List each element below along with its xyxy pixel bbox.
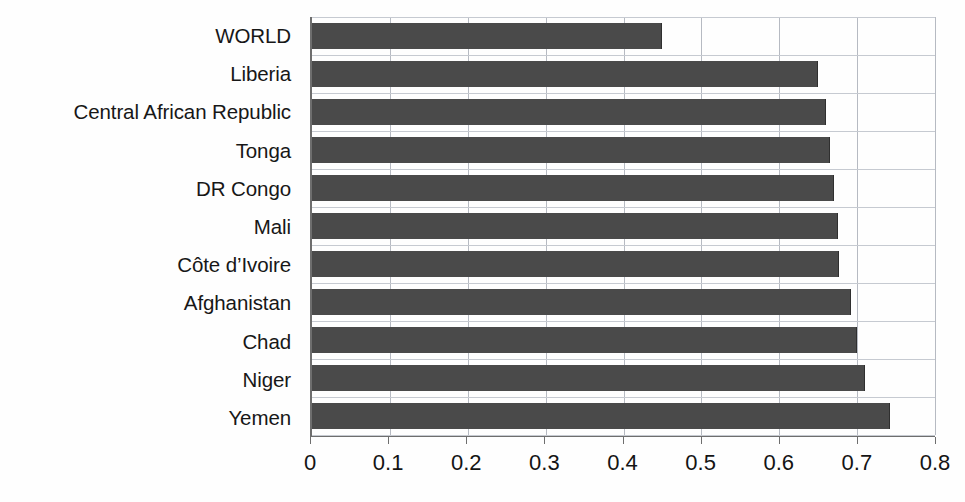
category-label: Yemen [0, 399, 300, 437]
category-label: DR Congo [0, 170, 300, 208]
bar [312, 289, 851, 314]
bar [312, 327, 857, 352]
x-tick-label: 0.3 [529, 450, 560, 476]
bar [312, 23, 662, 48]
bar-row [312, 321, 935, 359]
gridline-horizontal [312, 435, 935, 436]
bar [312, 137, 830, 162]
x-axis: 00.10.20.30.40.50.60.70.8 [310, 441, 935, 491]
bar-series [312, 17, 935, 435]
category-label: Niger [0, 361, 300, 399]
x-tick-label: 0.2 [451, 450, 482, 476]
bar [312, 251, 839, 276]
bar-row [312, 207, 935, 245]
x-tick-mark [857, 437, 858, 444]
x-tick-mark [310, 437, 311, 444]
category-label: Côte d’Ivoire [0, 246, 300, 284]
x-tick-mark [701, 437, 702, 444]
x-tick-mark [388, 437, 389, 444]
x-tick-label: 0 [304, 450, 316, 476]
bar [312, 213, 838, 238]
bar [312, 61, 818, 86]
bar-row [312, 169, 935, 207]
x-tick-mark [466, 437, 467, 444]
category-label: Afghanistan [0, 284, 300, 322]
x-tick-mark [544, 437, 545, 444]
bar-row [312, 93, 935, 131]
x-tick-mark [935, 437, 936, 444]
category-label: Mali [0, 208, 300, 246]
plot-area [310, 17, 935, 437]
category-label: Central African Republic [0, 93, 300, 131]
bar-row [312, 55, 935, 93]
category-label: Tonga [0, 132, 300, 170]
bar-row [312, 17, 935, 55]
bar-row [312, 245, 935, 283]
x-tick-label: 0.8 [920, 450, 951, 476]
x-tick-label: 0.4 [607, 450, 638, 476]
bar [312, 175, 834, 200]
bar-row [312, 397, 935, 435]
x-tick-label: 0.6 [763, 450, 794, 476]
x-tick-mark [623, 437, 624, 444]
category-axis-labels: WORLDLiberiaCentral African RepublicTong… [0, 17, 300, 437]
category-label: WORLD [0, 17, 300, 55]
x-tick-label: 0.1 [373, 450, 404, 476]
bar [312, 403, 890, 428]
category-label: Liberia [0, 55, 300, 93]
x-tick-mark [779, 437, 780, 444]
gridline-vertical [935, 17, 936, 435]
bar-row [312, 283, 935, 321]
bar [312, 365, 865, 390]
chart-title-cropped [0, 0, 965, 9]
x-tick-label: 0.7 [842, 450, 873, 476]
category-label: Chad [0, 323, 300, 361]
bar [312, 99, 826, 124]
bar-row [312, 359, 935, 397]
bar-row [312, 131, 935, 169]
x-tick-label: 0.5 [685, 450, 716, 476]
bar-chart: WORLDLiberiaCentral African RepublicTong… [0, 0, 965, 502]
